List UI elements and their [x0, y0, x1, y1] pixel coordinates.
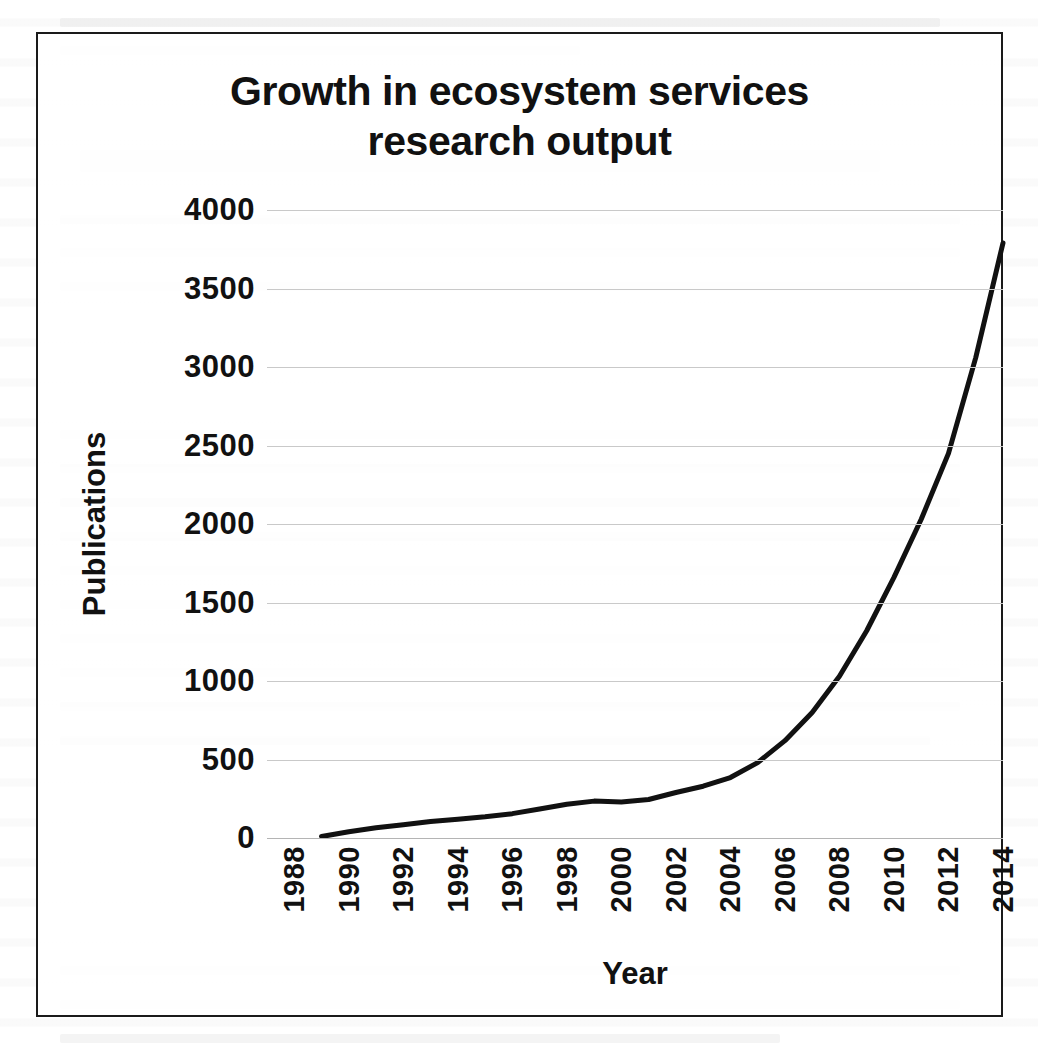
figure-frame: Growth in ecosystem services research ou…: [36, 32, 1003, 1017]
y-tick-label-1000: 1000: [125, 663, 255, 699]
y-tick-label-4000: 4000: [125, 192, 255, 228]
x-tick-label-2006: 2006: [769, 846, 802, 913]
y-tick-label-500: 500: [125, 742, 255, 778]
x-tick-label-1994: 1994: [442, 846, 475, 913]
x-tick-label-1996: 1996: [496, 846, 529, 913]
x-tick-label-2010: 2010: [878, 846, 911, 913]
x-tick-label-2008: 2008: [823, 846, 856, 913]
x-tick-label-2014: 2014: [987, 846, 1020, 913]
gridline-y-500: [267, 760, 1003, 761]
y-tick-label-1500: 1500: [125, 585, 255, 621]
gridline-y-4000: [267, 210, 1003, 211]
gridline-y-1500: [267, 603, 1003, 604]
y-axis-tick-labels: 05001000150020002500300035004000: [115, 210, 255, 838]
y-axis-title-label: Publications: [77, 432, 113, 616]
plot-area: [267, 210, 1003, 838]
y-tick-label-2500: 2500: [125, 428, 255, 464]
x-axis-title: Year: [267, 956, 1003, 992]
y-axis-title: Publications: [72, 210, 118, 838]
x-tick-label-1990: 1990: [333, 846, 366, 913]
y-tick-label-3500: 3500: [125, 271, 255, 307]
x-tick-label-2000: 2000: [605, 846, 638, 913]
x-tick-label-2004: 2004: [714, 846, 747, 913]
chart-title: Growth in ecosystem services research ou…: [38, 66, 1001, 166]
gridline-y-3500: [267, 289, 1003, 290]
y-tick-label-0: 0: [125, 820, 255, 856]
x-axis-tick-labels: 1988199019921994199619982000200220042006…: [267, 846, 1003, 950]
x-tick-label-1992: 1992: [387, 846, 420, 913]
gridline-y-0: [267, 838, 1003, 839]
x-tick-label-2012: 2012: [932, 846, 965, 913]
y-tick-label-3000: 3000: [125, 349, 255, 385]
x-tick-label-1988: 1988: [278, 846, 311, 913]
gridline-y-2500: [267, 446, 1003, 447]
y-tick-label-2000: 2000: [125, 506, 255, 542]
gridline-y-3000: [267, 367, 1003, 368]
x-tick-label-1998: 1998: [551, 846, 584, 913]
gridline-y-1000: [267, 681, 1003, 682]
gridline-y-2000: [267, 524, 1003, 525]
chart-title-line-1: Growth in ecosystem services: [128, 66, 911, 116]
chart-title-line-2: research output: [128, 116, 911, 166]
x-tick-label-2002: 2002: [660, 846, 693, 913]
